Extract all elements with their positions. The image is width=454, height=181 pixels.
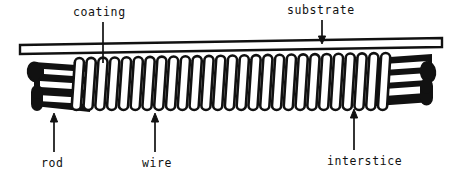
- wire-turn: [225, 55, 237, 110]
- wire-turn: [260, 55, 272, 110]
- rod-arrowhead: [50, 113, 57, 122]
- wire-coil: [72, 53, 390, 110]
- label-coating: coating: [73, 7, 126, 19]
- label-wire: wire: [142, 158, 172, 170]
- wire-turn: [154, 57, 166, 110]
- label-interstice: interstice: [327, 156, 402, 168]
- wire-turn: [284, 55, 296, 110]
- wire-turn: [213, 56, 225, 110]
- label-substrate: substrate: [287, 5, 355, 17]
- wire-turn: [343, 54, 355, 110]
- wire-turn: [201, 56, 213, 110]
- wire-turn: [296, 54, 308, 110]
- wire-turn: [319, 54, 331, 110]
- wire-turn: [142, 57, 154, 110]
- wire-turn: [237, 55, 249, 110]
- wire-turn: [166, 56, 178, 110]
- label-rod: rod: [41, 158, 64, 170]
- substrate-bar: [20, 38, 442, 54]
- wire-turn: [131, 57, 143, 110]
- wire-turn: [272, 55, 284, 110]
- wire-turn: [378, 53, 390, 110]
- figure-canvas: coating substrate rod wire interstice: [0, 0, 454, 181]
- wire-turn: [84, 58, 96, 110]
- wire-arrowhead: [151, 113, 158, 122]
- wire-turn: [95, 58, 107, 110]
- wire-turn: [107, 57, 119, 110]
- wire-turn: [331, 54, 343, 110]
- wire-turn: [72, 58, 84, 110]
- wire-turn: [354, 53, 366, 110]
- wire-turn: [307, 54, 319, 110]
- wire-turn: [178, 56, 190, 110]
- wire-turn: [248, 55, 260, 110]
- wire-turn: [190, 56, 202, 110]
- wire-turn: [366, 53, 378, 110]
- wire-turn: [119, 57, 131, 110]
